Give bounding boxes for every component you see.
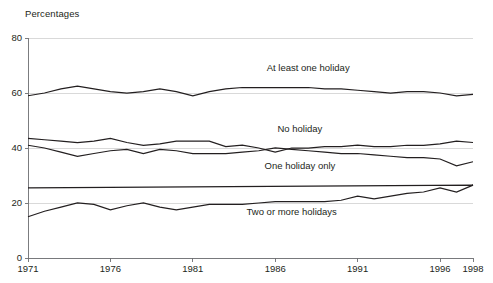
x-tick-label-1971: 1971	[17, 263, 38, 274]
y-tick-label-60: 60	[11, 87, 22, 98]
x-axis-group: 1971197619811986199119961998	[17, 258, 483, 274]
series-labels-group: At least one holidayNo holidayOne holida…	[247, 62, 350, 217]
series-label-no-holiday: No holiday	[277, 123, 322, 134]
y-tick-label-20: 20	[11, 197, 22, 208]
gridlines-group	[28, 38, 473, 258]
y-axis-group: 020406080	[11, 32, 28, 263]
series-group	[28, 86, 473, 217]
y-tick-label-40: 40	[11, 142, 22, 153]
y-tick-label-0: 0	[17, 252, 22, 263]
x-tick-label-1976: 1976	[100, 263, 121, 274]
series-line-no-holiday	[28, 138, 473, 152]
series-label-two-or-more-holidays: Two or more holidays	[247, 206, 338, 217]
series-label-at-least-one-holiday: At least one holiday	[267, 62, 350, 73]
series-line-at-least-one-holiday	[28, 86, 473, 96]
x-tick-label-1996: 1996	[429, 263, 450, 274]
y-tick-label-80: 80	[11, 32, 22, 43]
x-tick-label-1998: 1998	[462, 263, 483, 274]
x-tick-label-1986: 1986	[265, 263, 286, 274]
x-tick-label-1991: 1991	[347, 263, 368, 274]
chart-container: Percentages 020406080 197119761981198619…	[0, 0, 493, 283]
x-tick-label-1981: 1981	[182, 263, 203, 274]
series-label-one-holiday-only: One holiday only	[265, 160, 336, 171]
line-chart-plot: 020406080 1971197619811986199119961998 A…	[0, 0, 493, 283]
